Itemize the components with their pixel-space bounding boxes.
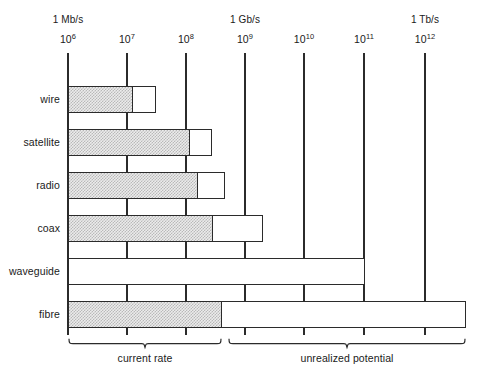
- axis-tick-label: 1010: [294, 33, 314, 45]
- gridline: [244, 53, 245, 335]
- bar-current-rate: [68, 86, 133, 113]
- gridline: [303, 53, 304, 335]
- bar-current-rate: [68, 172, 198, 199]
- category-label: waveguide: [9, 265, 60, 277]
- axis-tick-label: 106: [60, 33, 76, 45]
- category-label: fibre: [39, 308, 60, 320]
- axis-tick-label: 107: [119, 33, 135, 45]
- bar-total: [68, 258, 365, 285]
- brace-label: current rate: [118, 352, 173, 364]
- category-label: wire: [40, 93, 60, 105]
- category-label: radio: [36, 179, 60, 191]
- axis-tick-label: 108: [178, 33, 194, 45]
- category-label: satellite: [23, 136, 60, 148]
- gridline: [424, 53, 425, 335]
- bandwidth-chart: 1 Mb/s1061071081 Gb/s109101010111 Tb/s10…: [0, 0, 478, 368]
- axis-unit-label: 1 Gb/s: [230, 14, 260, 25]
- brace-group: [68, 338, 222, 350]
- brace-icon: [228, 338, 466, 350]
- axis-unit-label: 1 Mb/s: [53, 14, 84, 25]
- brace-label: unrealized potential: [300, 352, 393, 364]
- bar-current-rate: [68, 215, 213, 242]
- brace-group: [228, 338, 466, 350]
- brace-icon: [68, 338, 222, 350]
- axis-tick-label: 1011: [354, 33, 374, 45]
- category-label: coax: [37, 222, 60, 234]
- bar-current-rate: [68, 301, 222, 328]
- gridline: [363, 53, 364, 335]
- bar-current-rate: [68, 129, 190, 156]
- axis-unit-label: 1 Tb/s: [411, 14, 439, 25]
- axis-tick-label: 1012: [415, 33, 435, 45]
- axis-tick-label: 109: [237, 33, 253, 45]
